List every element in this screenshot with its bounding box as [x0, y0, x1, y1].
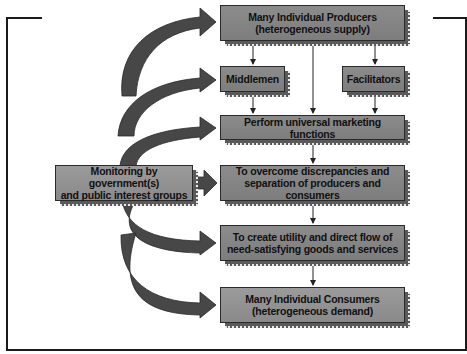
node-label: (heterogeneous supply) [255, 23, 370, 35]
curved-arrow-create [122, 200, 216, 255]
node-label: (heterogeneous demand) [252, 305, 373, 317]
node-consumers: Many Individual Consumers (heterogeneous… [220, 287, 405, 323]
node-producers: Many Individual Producers (heterogeneous… [220, 5, 405, 41]
node-label: and public interest groups [61, 189, 188, 201]
node-label: separation of producers and consumers [221, 177, 404, 201]
node-label: To create utility and direct flow of [233, 231, 392, 243]
node-label: Perform universal marketing functions [221, 116, 404, 140]
node-label: Middlemen [226, 73, 279, 85]
node-label: Facilitators [347, 73, 401, 85]
node-label: Many Individual Consumers [245, 293, 379, 305]
node-overcome: To overcome discrepancies and separation… [220, 165, 405, 201]
node-create: To create utility and direct flow of nee… [220, 225, 405, 261]
node-facilitators: Facilitators [342, 66, 405, 92]
node-label: Many Individual Producers [248, 11, 377, 23]
straight-arrow-overcome [196, 170, 217, 196]
node-perform: Perform universal marketing functions [220, 115, 405, 140]
node-label: Monitoring by government(s) [56, 165, 192, 189]
node-label: need-satisfying goods and services [227, 243, 398, 255]
node-monitoring: Monitoring by government(s) and public i… [55, 165, 193, 201]
node-label: To overcome discrepancies and [236, 165, 389, 177]
node-middlemen: Middlemen [220, 66, 285, 92]
